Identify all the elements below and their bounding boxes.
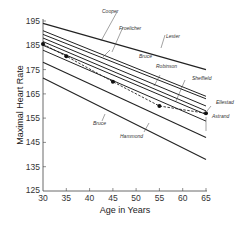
x-tick-label: 55 xyxy=(155,193,165,203)
series-labels: Cooper Froelicher Lester Bruce Robinson … xyxy=(93,8,234,139)
data-point xyxy=(111,80,115,84)
x-tick-label: 40 xyxy=(85,193,95,203)
x-tick-label: 30 xyxy=(38,193,48,203)
x-tick-label: 45 xyxy=(108,193,118,203)
line-hammond xyxy=(43,78,206,159)
label-cooper: Cooper xyxy=(102,8,119,14)
label-astrand: Astrand xyxy=(211,113,229,119)
label-ellestad: Ellestad xyxy=(216,99,234,105)
x-ticks: 30 35 40 45 50 55 60 65 xyxy=(38,188,211,203)
label-froelicher: Froelicher xyxy=(119,25,142,31)
series-lines xyxy=(43,23,206,159)
y-axis-title: Maximal Heart Rate xyxy=(15,65,25,145)
line-astrand xyxy=(43,44,206,113)
data-point xyxy=(41,42,45,46)
y-tick-label: 155 xyxy=(26,113,40,123)
x-tick-label: 65 xyxy=(201,193,211,203)
x-tick-label: 60 xyxy=(178,193,188,203)
label-sheffield: Sheffield xyxy=(192,75,212,81)
y-tick-label: 145 xyxy=(26,137,40,147)
x-tick-label: 50 xyxy=(131,193,141,203)
x-tick-label: 35 xyxy=(62,193,72,203)
heart-rate-chart: 195 185 175 165 155 145 135 125 30 35 40… xyxy=(0,0,250,229)
label-bruce-lower: Bruce xyxy=(93,120,106,126)
data-point xyxy=(157,104,161,108)
data-point xyxy=(204,111,208,115)
y-tick-label: 165 xyxy=(26,89,40,99)
y-tick-label: 135 xyxy=(26,162,40,172)
line-bruce-upper xyxy=(43,38,206,106)
y-tick-label: 175 xyxy=(26,65,40,75)
line-ellestad xyxy=(43,50,206,121)
line-froelicher xyxy=(43,34,206,98)
line-bruce-lower xyxy=(43,62,206,137)
line-cooper xyxy=(43,31,206,97)
label-hammond: Hammond xyxy=(120,133,143,139)
label-bruce-upper: Bruce xyxy=(139,53,152,59)
label-robinson: Robinson xyxy=(156,63,177,69)
x-axis-title: Age in Years xyxy=(100,205,151,215)
data-point xyxy=(64,54,68,58)
label-lester: Lester xyxy=(166,33,180,39)
y-tick-label: 195 xyxy=(26,16,40,26)
y-tick-label: 185 xyxy=(26,40,40,50)
